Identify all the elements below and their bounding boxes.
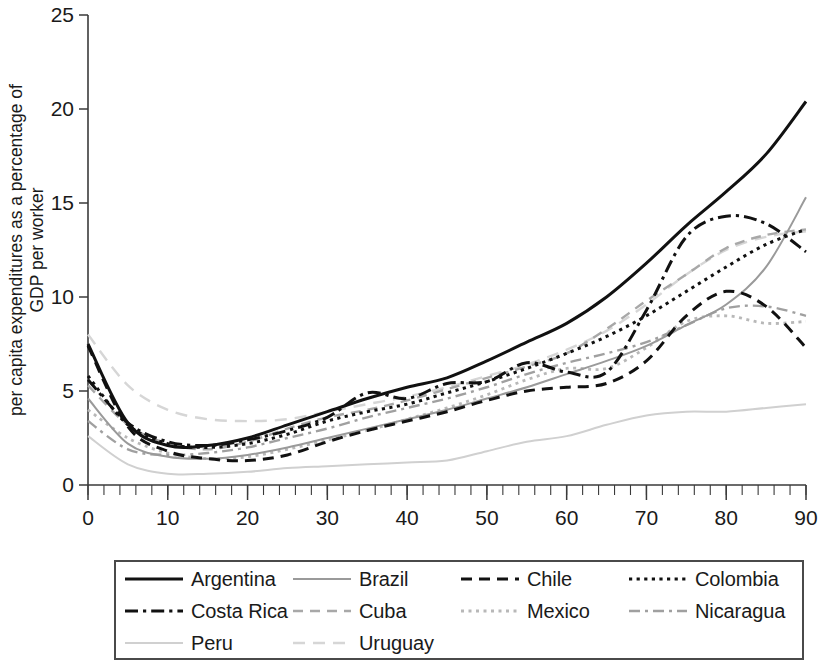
x-tick-label: 80 bbox=[715, 506, 738, 529]
legend-line-swatch bbox=[124, 572, 184, 586]
x-tick-label: 70 bbox=[635, 506, 658, 529]
y-tick-label: 20 bbox=[51, 97, 74, 120]
legend-label: Costa Rica bbox=[191, 600, 288, 623]
legend-item-chile[interactable]: Chile bbox=[460, 568, 628, 591]
y-tick-label: 25 bbox=[51, 3, 74, 26]
legend-label: Argentina bbox=[191, 568, 276, 591]
x-tick-label: 50 bbox=[475, 506, 498, 529]
y-axis-title: per capita expenditures as a percentage … bbox=[6, 84, 47, 416]
series-line-argentina bbox=[88, 101, 806, 447]
legend-item-nicaragua[interactable]: Nicaragua bbox=[628, 600, 796, 623]
y-axis-title-line2: GDP per worker bbox=[27, 187, 47, 312]
line-chart-svg: 05101520250102030405060708090ageper capi… bbox=[0, 0, 821, 550]
x-tick-label: 40 bbox=[395, 506, 418, 529]
legend-line-swatch bbox=[460, 604, 520, 618]
legend-item-mexico[interactable]: Mexico bbox=[460, 600, 628, 623]
series-line-chile bbox=[88, 291, 806, 461]
x-tick-label: 90 bbox=[794, 506, 817, 529]
legend-line-swatch bbox=[628, 604, 688, 618]
legend-line-swatch bbox=[124, 636, 184, 650]
legend-item-colombia[interactable]: Colombia bbox=[628, 568, 796, 591]
legend-line-swatch bbox=[124, 604, 184, 618]
legend-item-peru[interactable]: Peru bbox=[124, 632, 292, 655]
chart-legend: ArgentinaBrazilChileColombiaCosta RicaCu… bbox=[114, 560, 804, 660]
legend-label: Cuba bbox=[359, 600, 406, 623]
legend-label: Brazil bbox=[359, 568, 408, 591]
plot-area: 05101520250102030405060708090ageper capi… bbox=[0, 0, 821, 550]
y-tick-label: 10 bbox=[51, 285, 74, 308]
legend-item-brazil[interactable]: Brazil bbox=[292, 568, 460, 591]
series-line-brazil bbox=[88, 197, 806, 459]
y-tick-label: 0 bbox=[62, 473, 74, 496]
legend-label: Nicaragua bbox=[695, 600, 785, 623]
chart-figure: 05101520250102030405060708090ageper capi… bbox=[0, 0, 821, 665]
x-tick-label: 20 bbox=[236, 506, 259, 529]
legend-item-costa-rica[interactable]: Costa Rica bbox=[124, 600, 292, 623]
legend-line-swatch bbox=[628, 572, 688, 586]
legend-label: Mexico bbox=[527, 600, 590, 623]
legend-label: Uruguay bbox=[359, 632, 434, 655]
y-axis-title-line1: per capita expenditures as a percentage … bbox=[6, 84, 26, 416]
legend-label: Peru bbox=[191, 632, 233, 655]
y-tick-label: 5 bbox=[62, 379, 74, 402]
legend-line-swatch bbox=[292, 604, 352, 618]
legend-item-argentina[interactable]: Argentina bbox=[124, 568, 292, 591]
legend-line-swatch bbox=[460, 572, 520, 586]
y-tick-label: 15 bbox=[51, 191, 74, 214]
legend-label: Colombia bbox=[695, 568, 779, 591]
legend-line-swatch bbox=[292, 572, 352, 586]
x-tick-label: 60 bbox=[555, 506, 578, 529]
x-tick-label: 0 bbox=[82, 506, 94, 529]
series-line-colombia bbox=[88, 229, 806, 447]
series-line-uruguay bbox=[88, 231, 806, 421]
legend-item-uruguay[interactable]: Uruguay bbox=[292, 632, 460, 655]
x-tick-label: 10 bbox=[156, 506, 179, 529]
legend-line-swatch bbox=[292, 636, 352, 650]
series-line-mexico bbox=[88, 316, 806, 459]
series-line-peru bbox=[88, 404, 806, 474]
legend-item-cuba[interactable]: Cuba bbox=[292, 600, 460, 623]
x-axis-title: age bbox=[429, 543, 464, 550]
x-tick-label: 30 bbox=[316, 506, 339, 529]
series-line-nicaragua bbox=[88, 306, 806, 455]
legend-label: Chile bbox=[527, 568, 572, 591]
